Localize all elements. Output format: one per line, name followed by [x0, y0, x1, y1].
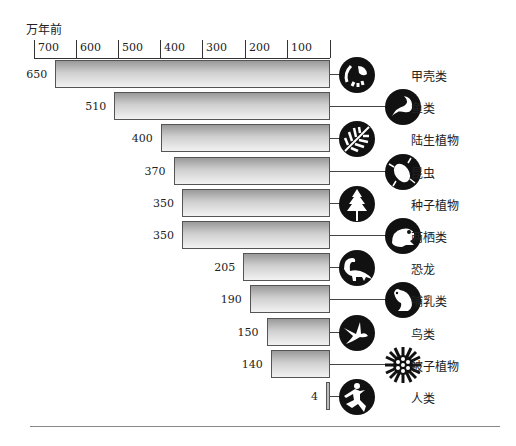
- bar-6: [243, 253, 330, 281]
- dinosaur-icon: [338, 249, 376, 287]
- axis-tick: 200: [245, 40, 246, 58]
- category-label: 种子植物: [411, 196, 459, 213]
- bar-7: [250, 285, 330, 313]
- bar-8: [267, 318, 330, 346]
- time-axis: 700 600 500 400 300 200 100: [34, 40, 330, 59]
- category-label: 鸟类: [411, 325, 435, 342]
- bar-1: [114, 92, 330, 120]
- axis-tick: 700: [34, 40, 35, 58]
- bird-icon: [338, 314, 376, 352]
- bottom-rule: [30, 426, 500, 427]
- bar-value-label: 190: [202, 293, 242, 306]
- bar-9: [271, 350, 330, 378]
- bar-2: [161, 124, 330, 152]
- bar-value-label: 150: [219, 326, 259, 339]
- category-label: 被子植物: [411, 357, 459, 374]
- unit-label: 万年前: [26, 20, 62, 37]
- fern-leaf-icon: [338, 120, 376, 158]
- bar-value-label: 140: [223, 358, 263, 371]
- connector-line: [330, 171, 386, 172]
- bar-4: [182, 189, 330, 217]
- connector-line: [330, 106, 386, 107]
- bar-value-label: 350: [134, 197, 174, 210]
- bar-0: [55, 60, 330, 88]
- category-label: 人类: [411, 389, 435, 406]
- bar-value-label: 350: [134, 229, 174, 242]
- category-label: 恐龙: [411, 260, 435, 277]
- bar-value-label: 205: [195, 261, 235, 274]
- axis-tick: 600: [76, 40, 77, 58]
- category-label: 两栖类: [411, 228, 447, 245]
- human-icon: [338, 378, 376, 416]
- bar-3: [174, 157, 330, 185]
- connector-line: [330, 299, 386, 300]
- pine-tree-icon: [338, 185, 376, 223]
- axis-tick: 300: [202, 40, 203, 58]
- axis-tick: 400: [160, 40, 161, 58]
- bar-value-label: 4: [278, 390, 318, 403]
- category-label: 哺乳类: [411, 292, 447, 309]
- bar-5: [182, 221, 330, 249]
- axis-tick: 500: [118, 40, 119, 58]
- bar-value-label: 400: [113, 132, 153, 145]
- bar-value-label: 650: [7, 68, 47, 81]
- category-label: 昆虫: [411, 164, 435, 181]
- axis-tick: 100: [287, 40, 288, 58]
- connector-line: [330, 364, 386, 365]
- connector-line: [330, 235, 386, 236]
- category-label: 陆生植物: [411, 131, 459, 148]
- category-label: 鱼类: [411, 99, 435, 116]
- bar-value-label: 510: [66, 100, 106, 113]
- crab-icon: [338, 56, 376, 94]
- bar-value-label: 370: [126, 165, 166, 178]
- category-label: 甲壳类: [411, 67, 447, 84]
- axis-end-tick: [330, 40, 331, 58]
